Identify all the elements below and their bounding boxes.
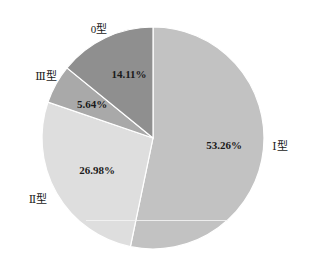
slice-category-label: 0型 bbox=[91, 20, 108, 36]
slice-percent-label: 26.98% bbox=[79, 164, 115, 176]
pie-slices bbox=[42, 27, 264, 249]
pie-chart bbox=[0, 0, 309, 264]
slice-category-label: Ⅰ型 bbox=[272, 137, 287, 153]
slice-category-label: Ⅲ型 bbox=[35, 67, 57, 83]
slice-category-label: Ⅱ型 bbox=[29, 190, 47, 206]
slice-percent-label: 5.64% bbox=[77, 98, 107, 110]
scan-line-artifact bbox=[86, 220, 228, 221]
slice-percent-label: 53.26% bbox=[206, 139, 242, 151]
slice-percent-label: 14.11% bbox=[111, 68, 146, 80]
